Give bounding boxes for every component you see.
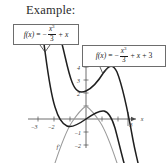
formula-sign: − xyxy=(43,31,47,39)
numerator-exponent: 3 xyxy=(124,45,127,50)
formula-numerator: x3 xyxy=(48,26,56,34)
formula-denominator: 3 xyxy=(49,35,55,43)
formula-plus: + xyxy=(131,52,135,60)
figure-root: Example: − xyxy=(0,0,168,163)
x-tick-label--2: −2 xyxy=(47,124,54,130)
x-axis-arrow xyxy=(131,117,136,122)
formula-lhs: f(x) xyxy=(24,31,35,39)
formula-plus-2: + xyxy=(142,52,146,60)
callout-box-f: f(x) = − x3 3 + x xyxy=(13,24,79,45)
callout-box-f-shifted: f(x) = − x3 3 + x + 3 xyxy=(82,45,166,67)
formula-fraction: x3 3 xyxy=(48,26,56,42)
formula-numerator: x3 xyxy=(120,48,128,56)
formula-term: x xyxy=(65,31,68,39)
formula-plus: + xyxy=(59,31,63,39)
formula-f-shifted: f(x) = − x3 3 + x + 3 xyxy=(96,48,153,64)
formula-fraction: x3 3 xyxy=(120,48,128,64)
formula-lhs: f(x) xyxy=(96,52,107,60)
y-tick-label--2: −2 xyxy=(74,143,81,149)
x-tick-label--3: −3 xyxy=(30,124,37,130)
curve-label-f-prime: f′ xyxy=(56,143,60,150)
formula-equals: = xyxy=(108,52,112,60)
x-axis-label: x xyxy=(140,116,144,122)
y-tick-label-4: 4 xyxy=(77,65,80,71)
y-tick-label-3: 3 xyxy=(76,78,80,84)
formula-denominator: 3 xyxy=(121,57,127,65)
y-tick-label--1: −1 xyxy=(74,130,81,136)
formula-f: f(x) = − x3 3 + x xyxy=(24,26,69,42)
formula-equals: = xyxy=(36,31,40,39)
numerator-exponent: 3 xyxy=(52,24,55,29)
formula-term: x xyxy=(137,52,140,60)
formula-sign: − xyxy=(115,52,119,60)
formula-constant: 3 xyxy=(149,52,153,60)
